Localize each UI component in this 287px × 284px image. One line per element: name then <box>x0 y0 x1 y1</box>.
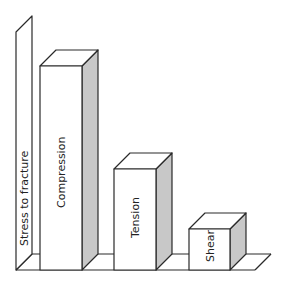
bar-compression: Compression <box>40 50 98 270</box>
stress-chart: Stress to fracture Compression Tension S… <box>0 0 287 284</box>
bar-label-tension: Tension <box>129 197 142 239</box>
bar-label-shear: Shear <box>204 230 217 262</box>
bar-tension: Tension <box>114 153 172 270</box>
y-axis-label: Stress to fracture <box>18 150 31 246</box>
bar-label-compression: Compression <box>55 137 68 208</box>
bar-shear: Shear <box>189 213 246 270</box>
